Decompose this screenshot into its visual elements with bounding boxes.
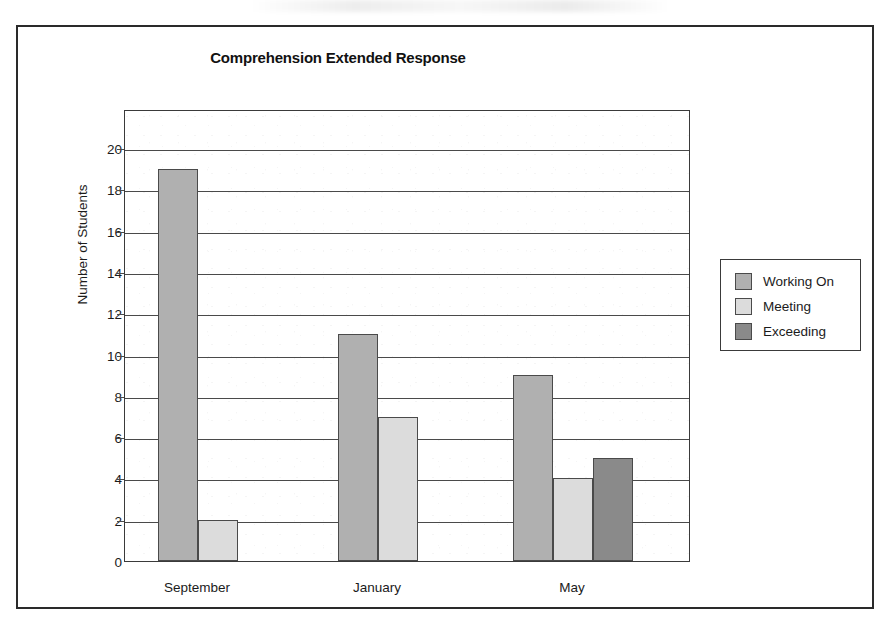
- gridline-12: [125, 315, 689, 316]
- y-tick-label-8: 8: [80, 389, 122, 404]
- bar-january-meeting: [378, 417, 418, 561]
- legend-swatch-icon: [735, 273, 752, 290]
- x-tick-label-january: January: [353, 580, 401, 595]
- y-tick-mark-12: [117, 314, 124, 315]
- y-tick-label-12: 12: [80, 307, 122, 322]
- scan-artifact-top: [250, 0, 670, 12]
- y-tick-mark-2: [117, 521, 124, 522]
- legend-label: Working On: [763, 274, 834, 289]
- gridline-20: [125, 150, 689, 151]
- y-tick-label-14: 14: [80, 266, 122, 281]
- bar-january-working-on: [338, 334, 378, 561]
- bar-may-exceeding: [593, 458, 633, 561]
- legend-item-exceeding: Exceeding: [735, 319, 860, 344]
- y-axis-tick-labels: 02468101214161820: [66, 110, 122, 562]
- x-tick-label-september: September: [164, 580, 230, 595]
- gridline-18: [125, 191, 689, 192]
- bar-september-working-on: [158, 169, 198, 561]
- gridline-8: [125, 398, 689, 399]
- y-tick-mark-8: [117, 397, 124, 398]
- y-tick-mark-14: [117, 273, 124, 274]
- gridline-16: [125, 233, 689, 234]
- bar-may-working-on: [513, 375, 553, 561]
- legend-label: Exceeding: [763, 324, 826, 339]
- y-tick-mark-4: [117, 479, 124, 480]
- legend-item-meeting: Meeting: [735, 294, 860, 319]
- bar-may-meeting: [553, 478, 593, 561]
- legend-swatch-icon: [735, 298, 752, 315]
- gridline-14: [125, 274, 689, 275]
- chart-title: Comprehension Extended Response: [18, 49, 658, 66]
- plot-area: [124, 110, 690, 562]
- y-tick-label-20: 20: [80, 142, 122, 157]
- y-tick-mark-20: [117, 149, 124, 150]
- legend-label: Meeting: [763, 299, 811, 314]
- chart-legend: Working OnMeetingExceeding: [720, 259, 861, 351]
- y-tick-mark-16: [117, 232, 124, 233]
- legend-swatch-icon: [735, 323, 752, 340]
- chart-page-frame: Comprehension Extended Response Number o…: [16, 25, 874, 609]
- y-tick-mark-6: [117, 438, 124, 439]
- y-tick-mark-18: [117, 190, 124, 191]
- y-tick-label-0: 0: [80, 555, 122, 570]
- y-tick-label-6: 6: [80, 431, 122, 446]
- y-tick-label-2: 2: [80, 513, 122, 528]
- x-tick-label-may: May: [559, 580, 585, 595]
- y-tick-label-16: 16: [80, 224, 122, 239]
- y-tick-label-18: 18: [80, 183, 122, 198]
- bar-september-meeting: [198, 520, 238, 561]
- gridline-10: [125, 357, 689, 358]
- legend-item-working-on: Working On: [735, 269, 860, 294]
- y-tick-label-10: 10: [80, 348, 122, 363]
- y-tick-mark-10: [117, 356, 124, 357]
- y-tick-label-4: 4: [80, 472, 122, 487]
